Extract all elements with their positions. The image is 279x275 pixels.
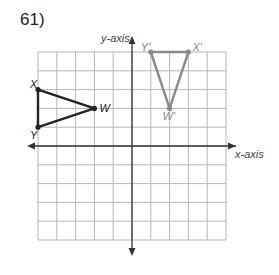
y-axis-label: y-axis (100, 32, 130, 44)
vertex-label: W' (163, 110, 176, 122)
vertex-label: Y (30, 129, 38, 141)
coordinate-plane: y-axis x-axis XWY Y'X'W' (0, 0, 279, 275)
x-axis-label: x-axis (234, 148, 264, 160)
x-axis-left-arrow-icon (27, 143, 35, 150)
y-axis-down-arrow-icon (129, 248, 136, 256)
vertex-label: W (99, 102, 111, 114)
image-triangle: Y'X'W' (141, 41, 203, 122)
vertex-point (186, 49, 191, 54)
vertex-label: X' (191, 41, 202, 53)
vertex-label: Y' (141, 41, 151, 53)
original-triangle: XWY (29, 78, 111, 142)
vertex-point (92, 106, 97, 111)
vertex-label: X (29, 78, 38, 90)
